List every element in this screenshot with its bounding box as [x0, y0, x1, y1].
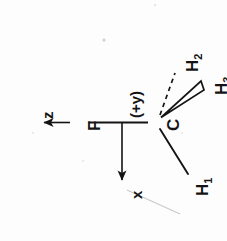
atom-label-fluorine: F [86, 121, 103, 131]
molecule-drawing-layer [0, 0, 227, 241]
hydrogen-2-text: H [183, 60, 202, 72]
atom-label-hydrogen-1: H1 [194, 178, 214, 196]
carbon-text: C [164, 119, 183, 131]
axis-y-text: (+y) [127, 91, 144, 118]
atom-label-carbon: C [165, 119, 182, 131]
axis-label-x: x [129, 191, 144, 199]
fluorine-text: F [85, 121, 104, 131]
atom-label-hydrogen-3: H3 [213, 77, 227, 95]
atom-label-hydrogen-2: H2 [184, 54, 204, 72]
axis-label-z: z [40, 112, 55, 120]
hydrogen-2-subscript: 2 [192, 54, 204, 60]
chemistry-figure: C F H1 H2 H3 z x (+y) [0, 0, 227, 241]
hydrogen-1-subscript: 1 [202, 178, 214, 184]
bond-line-c-h1 [160, 129, 188, 174]
hydrogen-3-text: H [212, 83, 227, 95]
axis-label-y: (+y) [128, 91, 143, 118]
axis-z-text: z [39, 112, 56, 120]
bond-wedge-c-h3 [161, 81, 204, 118]
axis-x-text: x [128, 191, 145, 199]
hydrogen-3-subscript: 3 [221, 77, 227, 83]
hydrogen-1-text: H [193, 184, 212, 196]
